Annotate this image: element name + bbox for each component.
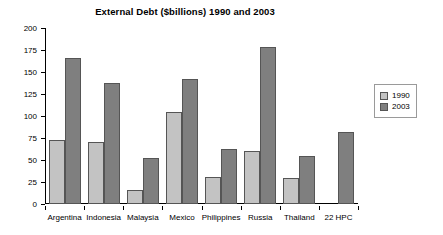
bar-1990 — [49, 140, 65, 204]
x-axis-tick-label: Mexico — [169, 213, 194, 222]
bar-group — [123, 28, 162, 204]
bar-1990 — [88, 142, 104, 204]
x-axis-tick-mark — [162, 206, 163, 210]
x-axis-tick-mark — [84, 206, 85, 210]
bar-group — [162, 28, 201, 204]
bar-group — [45, 28, 84, 204]
x-axis-group: Philippines — [202, 206, 241, 232]
x-axis-group: Indonesia — [84, 206, 123, 232]
x-axis-group: Thailand — [280, 206, 319, 232]
x-axis-tick-label: Philippines — [202, 213, 241, 222]
legend-swatch-icon — [380, 92, 388, 100]
bar-2003 — [65, 58, 81, 204]
x-axis-tick-label: Russia — [248, 213, 272, 222]
x-axis-tick-mark — [319, 206, 320, 210]
bar-2003 — [338, 132, 354, 204]
x-axis-tick-mark — [202, 206, 203, 210]
x-axis-group: Argentina — [45, 206, 84, 232]
legend-swatch-icon — [380, 103, 388, 111]
x-axis-tick-label: Malaysia — [127, 213, 159, 222]
bar-1990 — [127, 190, 143, 204]
bar-group — [202, 28, 241, 204]
x-axis-group: Russia — [241, 206, 280, 232]
x-axis-tick-mark — [123, 206, 124, 210]
chart-legend: 19902003 — [374, 84, 417, 118]
x-axis: ArgentinaIndonesiaMalaysiaMexicoPhilippi… — [45, 206, 358, 232]
bar-2003 — [182, 79, 198, 204]
y-axis-tick-label: 50 — [28, 156, 37, 165]
chart-title: External Debt ($billions) 1990 and 2003 — [0, 6, 370, 17]
y-axis-tick-label: 100 — [24, 112, 37, 121]
bar-2003 — [299, 156, 315, 204]
bars-layer — [45, 28, 358, 204]
x-axis-tick-label: Indonesia — [86, 213, 121, 222]
x-axis-tick-mark — [280, 206, 281, 210]
x-axis-tick-label: Thailand — [284, 213, 315, 222]
y-axis-tick-label: 25 — [28, 178, 37, 187]
x-axis-tick-label: Argentina — [47, 213, 81, 222]
y-axis: 0255075100125150175200 — [0, 0, 45, 235]
bar-chart: External Debt ($billions) 1990 and 2003 … — [0, 0, 443, 235]
y-axis-tick-label: 125 — [24, 90, 37, 99]
bar-2003 — [221, 149, 237, 204]
bar-2003 — [260, 47, 276, 204]
bar-group — [319, 28, 358, 204]
x-axis-tick-label: 22 HPC — [324, 213, 352, 222]
bar-1990 — [244, 151, 260, 204]
bar-2003 — [104, 83, 120, 204]
y-axis-tick-label: 0 — [33, 200, 37, 209]
y-axis-tick-label: 75 — [28, 134, 37, 143]
bar-2003 — [143, 158, 159, 204]
bar-group — [241, 28, 280, 204]
bar-1990 — [205, 177, 221, 204]
bar-group — [280, 28, 319, 204]
y-axis-tick-label: 200 — [24, 24, 37, 33]
x-axis-tick-mark — [358, 206, 359, 210]
legend-item-2003[interactable]: 2003 — [380, 102, 410, 111]
legend-label: 1990 — [392, 91, 410, 100]
x-axis-group: Mexico — [162, 206, 201, 232]
y-axis-tick-mark — [41, 204, 45, 205]
x-axis-group: Malaysia — [123, 206, 162, 232]
x-axis-tick-mark — [241, 206, 242, 210]
y-axis-tick-label: 175 — [24, 46, 37, 55]
legend-label: 2003 — [392, 102, 410, 111]
x-axis-group: 22 HPC — [319, 206, 358, 232]
legend-item-1990[interactable]: 1990 — [380, 91, 410, 100]
bar-1990 — [283, 178, 299, 204]
bar-group — [84, 28, 123, 204]
x-axis-tick-mark — [45, 206, 46, 210]
y-axis-tick-label: 150 — [24, 68, 37, 77]
bar-1990 — [166, 112, 182, 204]
